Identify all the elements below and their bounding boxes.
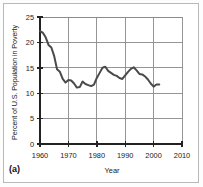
figure-caption: (a) (9, 164, 20, 174)
figure-panel: 0510152025 196019701980199020002010 Perc… (0, 0, 203, 187)
x-tick-label: 1990 (110, 151, 140, 160)
x-tick-label: 1980 (82, 151, 112, 160)
x-tick-label: 2010 (167, 151, 197, 160)
gridlines-group (40, 17, 182, 144)
x-tick-label: 1960 (25, 151, 55, 160)
x-tick-label: 1970 (53, 151, 83, 160)
tick-marks-group (37, 17, 182, 147)
axes-group (40, 16, 182, 144)
data-series-line (40, 31, 159, 87)
y-axis-title: Percent of U.S. Population in Poverty (10, 17, 19, 149)
x-tick-label: 2000 (139, 151, 169, 160)
x-axis-title: Year (40, 166, 184, 175)
